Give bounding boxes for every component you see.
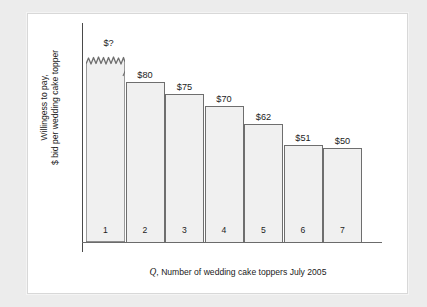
bar-index-label: 4 (205, 225, 244, 235)
bar-index-label: 2 (126, 225, 165, 235)
bar-column[interactable]: $?1 (86, 23, 125, 242)
chart-card-panel: Willingess to pay, $ bid per wedding cak… (27, 13, 408, 294)
bar-index-label: 3 (165, 225, 204, 235)
bar-index-label: 5 (244, 225, 283, 235)
y-axis-label: Willingess to pay, $ bid per wedding cak… (39, 22, 62, 192)
bar-column[interactable]: $753 (165, 23, 204, 242)
bar-value-label: $70 (216, 94, 231, 104)
bar-index-label: 1 (86, 225, 125, 235)
bar-rect[interactable] (86, 53, 125, 242)
y-axis-line (82, 23, 83, 252)
page-background: Willingess to pay, $ bid per wedding cak… (0, 0, 427, 307)
x-axis-caption: Q, Number of wedding cake toppers July 2… (82, 267, 394, 277)
bar-column[interactable]: $625 (244, 23, 283, 242)
bar-column[interactable]: $802 (126, 23, 165, 242)
bar-rect[interactable] (126, 82, 165, 242)
bar-column[interactable]: $516 (284, 23, 323, 242)
bar-index-label: 6 (284, 225, 323, 235)
y-axis-label-line-2: $ bid per wedding cake topper (50, 22, 61, 192)
bar-value-label: $51 (295, 133, 310, 143)
bar-column[interactable]: $507 (323, 23, 362, 242)
bar-chart: Willingess to pay, $ bid per wedding cak… (28, 14, 409, 295)
bar-value-label: $50 (335, 136, 350, 146)
y-axis-label-line-1: Willingess to pay, (39, 22, 50, 192)
bar-index-label: 7 (323, 225, 362, 235)
bar-rect[interactable] (165, 94, 204, 242)
bar-rect[interactable] (205, 106, 244, 242)
bar-group: $?1$802$753$704$625$516$507 (86, 23, 360, 242)
bar-value-label: $75 (177, 82, 192, 92)
bar-column[interactable]: $704 (205, 23, 244, 242)
bar-value-label: $80 (137, 70, 152, 80)
x-axis-line (82, 242, 382, 243)
bar-value-label: $62 (256, 112, 271, 122)
axis-break-jagged-top-icon (86, 53, 125, 242)
bar-value-label: $? (103, 38, 113, 48)
x-axis-caption-text: , Number of wedding cake toppers July 20… (156, 267, 326, 277)
